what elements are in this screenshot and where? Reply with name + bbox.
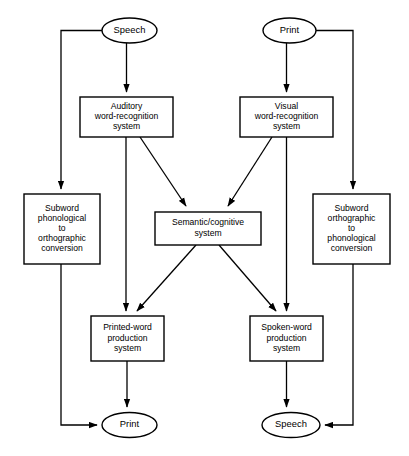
edge-semantic-to-spoken-word (219, 245, 276, 311)
node-label: Print (120, 418, 140, 429)
edge-auditory-to-semantic (140, 137, 186, 206)
node-subword-orthographic-to-phonological-conversion: Subwordorthographictophonologicalconvers… (313, 194, 390, 264)
node-speech-in: Speech (102, 18, 157, 43)
node-label: Speech (114, 24, 146, 35)
node-subword-phonological-to-orthographic-conversion: Subwordphonologicaltoorthographicconvers… (24, 194, 100, 264)
node-spoken-word-production-system: Spoken-wordproductionsystem (250, 316, 323, 361)
edge-subword-orthographic-to-speech (325, 264, 353, 425)
node-semantic-cognitive-system: Semantic/cognitivesystem (155, 212, 261, 245)
node-label: Print (280, 24, 300, 35)
flowchart-diagram: SpeechPrintAuditoryword-recognitionsyste… (0, 0, 409, 456)
nodes-layer: SpeechPrintAuditoryword-recognitionsyste… (24, 18, 390, 438)
diagram-canvas: SpeechPrintAuditoryword-recognitionsyste… (0, 0, 409, 456)
node-speech-out: Speech (262, 413, 320, 438)
node-printed-word-production-system: Printed-wordproductionsystem (91, 316, 164, 361)
node-label: Speech (275, 418, 307, 429)
node-print-out: Print (102, 413, 157, 438)
edge-semantic-to-printed-word (137, 245, 196, 311)
node-visual-word-recognition-system: Visualword-recognitionsystem (240, 97, 333, 137)
node-auditory-word-recognition-system: Auditoryword-recognitionsystem (80, 97, 173, 137)
edge-visual-to-semantic (228, 137, 272, 206)
node-print-in: Print (263, 18, 316, 43)
